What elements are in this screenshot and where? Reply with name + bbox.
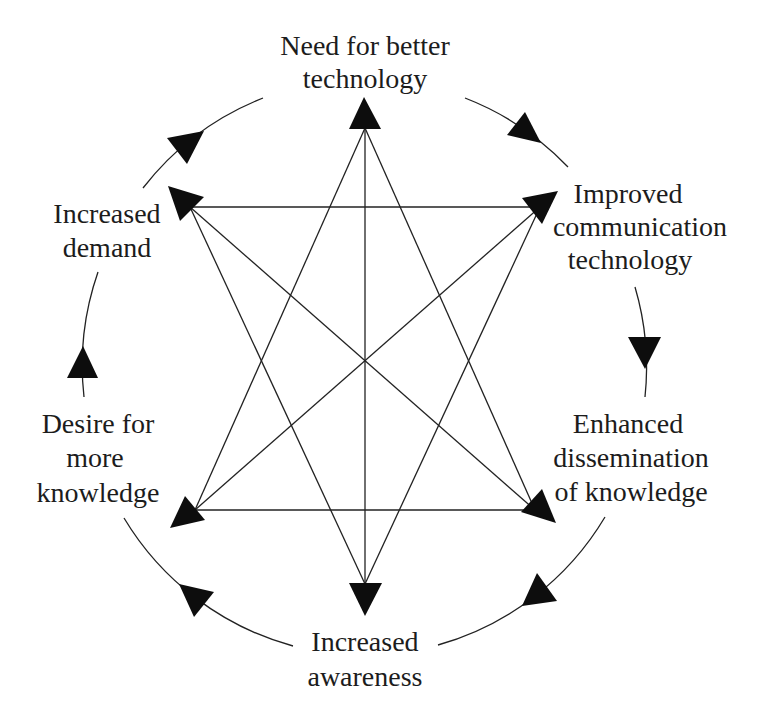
node-label-line: Desire for xyxy=(42,408,155,439)
node-desire-for-more-knowledge: Desire for more knowledge xyxy=(37,408,160,508)
link-awareness-demand xyxy=(190,207,365,584)
node-label-line: demand xyxy=(63,232,152,263)
node-label-line: knowledge xyxy=(37,477,160,508)
node-label-line: more xyxy=(66,442,124,473)
node-increased-awareness: Increased awareness xyxy=(307,626,422,692)
link-awareness-improved xyxy=(365,207,540,584)
link-improved-desire xyxy=(195,207,540,510)
node-label-line: awareness xyxy=(307,661,422,692)
arc-demand-to-need xyxy=(143,98,263,188)
cycle-arrow-down-icon xyxy=(628,337,661,369)
node-label-line: of knowledge xyxy=(554,476,707,507)
link-demand-enhanced xyxy=(190,207,535,510)
node-label-line: technology xyxy=(303,63,427,94)
node-label-line: technology xyxy=(568,244,692,275)
arrowhead-up-icon xyxy=(349,97,381,129)
cycle-diagram: Need for better technology Improved comm… xyxy=(0,0,758,725)
arrowhead-down-icon xyxy=(349,583,382,616)
node-improved-communication-technology: Improved communication technology xyxy=(553,178,727,275)
node-label-line: Enhanced xyxy=(573,408,683,439)
cross-links xyxy=(190,128,540,584)
arrowhead-up-left-icon xyxy=(168,186,204,221)
node-increased-demand: Increased demand xyxy=(53,198,160,263)
node-label-line: Increased xyxy=(53,198,160,229)
link-need-enhanced xyxy=(365,128,535,510)
link-need-desire xyxy=(195,128,365,510)
cycle-arrow-down-left-icon xyxy=(522,573,557,606)
arc-desire-to-demand xyxy=(82,272,98,397)
node-label-line: Increased xyxy=(311,626,418,657)
node-label-line: communication xyxy=(553,211,727,242)
arrowhead-down-right-icon xyxy=(521,489,556,523)
arc-awareness-to-desire xyxy=(124,518,293,646)
node-label-line: dissemination xyxy=(553,442,709,473)
arc-enhanced-to-awareness xyxy=(438,517,605,645)
cycle-arrow-up-icon xyxy=(67,346,98,378)
node-enhanced-dissemination-of-knowledge: Enhanced dissemination of knowledge xyxy=(553,408,709,507)
cycle-arcs xyxy=(67,98,661,646)
cycle-arrow-down-right-icon xyxy=(507,112,541,143)
cycle-arrow-up-left-icon xyxy=(179,584,214,617)
node-need-for-better-technology: Need for better technology xyxy=(280,30,450,94)
node-label-line: Need for better xyxy=(280,30,450,61)
cycle-arrow-up-right-icon xyxy=(167,131,204,164)
vertex-arrowheads xyxy=(168,97,558,616)
node-label-line: Improved xyxy=(574,178,683,209)
